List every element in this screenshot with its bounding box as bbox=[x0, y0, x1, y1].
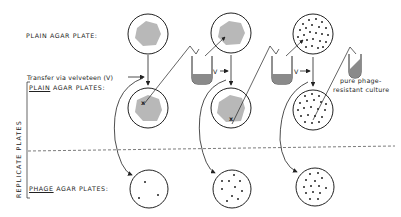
label-plain-agar-plates: PLAIN AGAR PLATES: bbox=[29, 84, 105, 91]
label-pure-culture-line2: resistant culture bbox=[333, 86, 390, 93]
plate-row1-col1 bbox=[128, 14, 168, 54]
label-plain-agar-plate: PLAIN AGAR PLATE: bbox=[26, 32, 98, 39]
phage-plate-col3 bbox=[296, 168, 334, 206]
label-phage-underlined: PHAGE bbox=[29, 185, 54, 192]
plate-row2-col2 bbox=[211, 88, 251, 128]
label-replicate-plates: REPLICATE PLATES bbox=[15, 120, 22, 198]
plate-row2-col1 bbox=[128, 88, 168, 128]
pick-mark-1: x bbox=[141, 99, 146, 106]
test-tube-2 bbox=[272, 56, 292, 84]
label-transfer-velveteen: Transfer via velveteen (V) bbox=[27, 74, 113, 81]
label-plain-rest: AGAR PLATES: bbox=[50, 84, 105, 91]
phage-plate-col1 bbox=[130, 170, 168, 208]
label-phage-rest: AGAR PLATES: bbox=[54, 185, 109, 192]
test-tube-pure-culture bbox=[349, 54, 361, 78]
label-v-transfer-3: V bbox=[294, 68, 299, 75]
pick-mark-2: x bbox=[229, 115, 234, 122]
label-v-transfer-2: V bbox=[213, 68, 218, 75]
plate-row1-col3 bbox=[293, 14, 333, 54]
plate-row2-col3 bbox=[293, 90, 333, 130]
phage-plate-col2 bbox=[213, 170, 251, 208]
label-plain-underlined: PLAIN bbox=[29, 84, 50, 91]
test-tube-1 bbox=[192, 56, 212, 84]
plate-row1-col2 bbox=[211, 13, 251, 53]
label-phage-agar-plates: PHAGE AGAR PLATES: bbox=[29, 185, 108, 192]
label-pure-culture-line1: pure phage- bbox=[340, 77, 382, 84]
